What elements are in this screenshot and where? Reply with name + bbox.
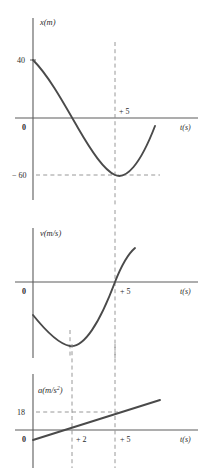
acceleration-line: [33, 400, 160, 440]
acceleration-x-axis-label: t(s): [180, 435, 191, 444]
position-tick-label-minus60: − 60: [12, 171, 27, 180]
acceleration-graph-panel: a(m/s2) 18 0 + 2 + 5 t(s): [0, 360, 213, 476]
acceleration-tick-label-plus2: + 2: [76, 435, 87, 444]
kinematics-figure: x(m) 40 − 60 0 + 5 t(s) v(m/s) 0: [0, 0, 213, 476]
position-tick-label-40: 40: [17, 56, 25, 65]
position-origin-label: 0: [22, 123, 26, 132]
velocity-graph-svg: v(m/s) 0 + 5 t(s): [0, 210, 213, 360]
position-graph-panel: x(m) 40 − 60 0 + 5 t(s): [0, 0, 213, 210]
acceleration-y-axis-label: a(m/s2): [38, 385, 63, 395]
velocity-tick-label-plus5: + 5: [120, 287, 131, 296]
position-y-axis-label: x(m): [39, 17, 56, 27]
velocity-y-axis-label: v(m/s): [40, 228, 61, 238]
position-tick-label-plus5: + 5: [119, 107, 130, 116]
acceleration-origin-label: 0: [22, 435, 26, 444]
velocity-graph-panel: v(m/s) 0 + 5 t(s): [0, 210, 213, 360]
position-x-axis-label: t(s): [180, 123, 191, 132]
velocity-origin-label: 0: [22, 287, 26, 296]
position-graph-svg: x(m) 40 − 60 0 + 5 t(s): [0, 0, 213, 210]
acceleration-tick-label-plus5: + 5: [120, 435, 131, 444]
velocity-x-axis-label: t(s): [180, 287, 191, 296]
acceleration-graph-svg: a(m/s2) 18 0 + 2 + 5 t(s): [0, 360, 213, 476]
velocity-curve: [33, 248, 135, 346]
acceleration-tick-label-18: 18: [17, 408, 25, 417]
